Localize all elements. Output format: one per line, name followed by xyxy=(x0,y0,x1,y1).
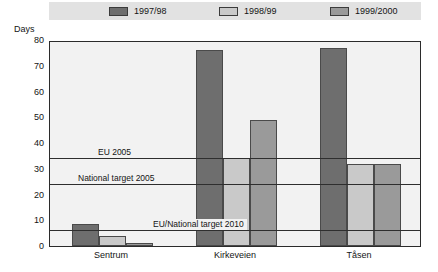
y-tick-label: 80 xyxy=(2,36,44,45)
y-tick-label: 50 xyxy=(2,113,44,122)
legend-label-1998-99: 1998/99 xyxy=(244,7,277,16)
legend-item-1999-2000: 1999/2000 xyxy=(330,7,398,16)
bar xyxy=(99,236,126,246)
reference-line xyxy=(50,158,420,159)
x-axis-category-labels: SentrumKirkeveienTåsen xyxy=(49,250,421,264)
x-axis-category-label: Sentrum xyxy=(94,250,128,260)
legend-swatch-1997-98 xyxy=(109,7,128,16)
y-axis-title: Days xyxy=(14,24,35,34)
reference-line-label: National target 2005 xyxy=(75,173,158,184)
bar xyxy=(320,48,347,246)
y-axis-tick-labels: 01020304050607080 xyxy=(0,41,44,247)
y-tick-label: 60 xyxy=(2,88,44,97)
bar xyxy=(72,224,99,246)
legend-swatch-1998-99 xyxy=(219,7,238,16)
y-tick-label: 70 xyxy=(2,62,44,71)
legend-item-1997-98: 1997/98 xyxy=(109,7,167,16)
reference-line-label: EU 2005 xyxy=(95,147,134,158)
x-axis-category-label: Tåsen xyxy=(346,250,371,260)
x-axis-category-label: Kirkeveien xyxy=(214,250,256,260)
legend-swatch-1999-2000 xyxy=(330,7,349,16)
bar xyxy=(374,164,401,246)
y-tick-label: 0 xyxy=(2,242,44,251)
bar xyxy=(223,158,250,246)
bar xyxy=(347,164,374,246)
legend-item-1998-99: 1998/99 xyxy=(219,7,277,16)
reference-line xyxy=(50,184,420,185)
bar xyxy=(126,243,153,246)
reference-line-label: EU/National target 2010 xyxy=(150,219,247,230)
plot-inner: EU 2005National target 2005EU/National t… xyxy=(50,42,420,246)
reference-line xyxy=(50,230,420,231)
y-tick-label: 20 xyxy=(2,191,44,200)
y-tick-label: 10 xyxy=(2,216,44,225)
y-tick-label: 30 xyxy=(2,165,44,174)
legend-label-1999-2000: 1999/2000 xyxy=(355,7,398,16)
bar xyxy=(196,50,223,246)
y-tick-label: 40 xyxy=(2,139,44,148)
chart-legend: 1997/98 1998/99 1999/2000 xyxy=(49,2,421,20)
plot-area: EU 2005National target 2005EU/National t… xyxy=(49,41,421,247)
legend-label-1997-98: 1997/98 xyxy=(134,7,167,16)
